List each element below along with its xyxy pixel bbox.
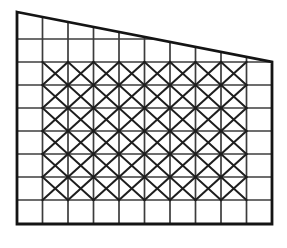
frame-diagram [0,0,287,248]
figure-root [0,0,287,248]
